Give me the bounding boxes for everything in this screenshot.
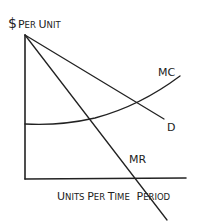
mr-label: MR bbox=[129, 153, 146, 166]
mc-label: MC bbox=[158, 66, 175, 79]
dollar-symbol: $ bbox=[8, 15, 17, 31]
demand-curve bbox=[25, 35, 164, 119]
d-label: D bbox=[167, 121, 175, 134]
marginal-cost-curve bbox=[25, 76, 180, 124]
x-axis bbox=[25, 178, 186, 179]
y-axis-label: $PER UNIT bbox=[8, 15, 61, 31]
economics-diagram: $PER UNIT MC D MR UNITS PER TIME PERIOD bbox=[0, 0, 198, 222]
x-axis-label: UNITS PER TIME PERIOD bbox=[57, 190, 171, 203]
